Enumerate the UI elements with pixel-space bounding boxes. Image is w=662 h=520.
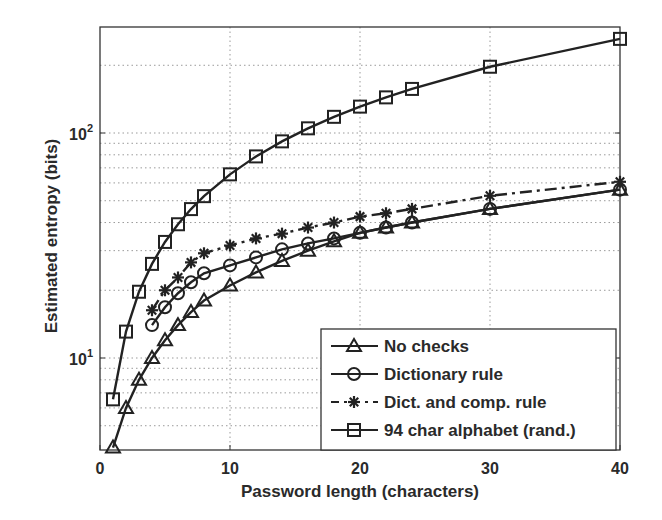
star-marker [198, 247, 210, 259]
x-axis-label: Password length (characters) [241, 482, 479, 501]
star-marker [276, 228, 288, 240]
x-tick-label: 40 [611, 460, 629, 477]
y-tick-label: 101 [69, 347, 93, 368]
star-marker [354, 211, 366, 223]
star-marker [406, 203, 418, 215]
star-marker [328, 217, 340, 229]
x-tick-label: 30 [481, 460, 499, 477]
y-tick-label: 102 [69, 122, 93, 143]
star-marker [185, 256, 197, 268]
star-marker [484, 190, 496, 202]
star-marker [172, 271, 184, 283]
legend-label: No checks [384, 337, 469, 356]
x-tick-label: 0 [96, 460, 105, 477]
y-axis-label: Estimated entropy (bits) [42, 139, 61, 334]
legend-label: Dict. and comp. rule [384, 393, 546, 412]
star-marker [224, 240, 236, 252]
star-marker [614, 176, 626, 188]
legend-star-icon [348, 396, 360, 408]
star-marker [380, 207, 392, 219]
x-tick-label: 20 [351, 460, 369, 477]
series-dict-and-comp-rule [146, 176, 626, 316]
star-marker [159, 284, 171, 296]
star-marker [302, 222, 314, 234]
x-tick-label: 10 [221, 460, 239, 477]
legend-label: 94 char alphabet (rand.) [384, 421, 576, 440]
entropy-chart: 010203040101102 Password length (charact… [0, 0, 662, 520]
star-marker [250, 232, 262, 244]
star-marker [146, 304, 158, 316]
legend: No checksDictionary ruleDict. and comp. … [321, 329, 616, 450]
legend-label: Dictionary rule [384, 365, 503, 384]
series-dictionary-rule [146, 184, 626, 331]
